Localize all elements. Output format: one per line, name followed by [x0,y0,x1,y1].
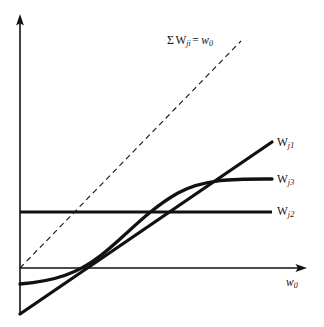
curve-sum-constraint [20,41,241,268]
x-axis-label-sub: 0 [294,281,298,290]
label-W-j3: Wj3 [277,174,294,187]
label-W-j1-main: W [277,136,288,148]
label-W-j2-sub: j2 [288,210,295,219]
label-W-j2: Wj2 [277,206,294,219]
label-W-j1: Wj1 [277,137,294,150]
sum-constraint-variable: W [175,34,186,46]
x-axis-label-main: w [286,276,294,288]
horizontal-axis [20,264,307,272]
equals-sign: = [191,34,202,46]
label-W-j3-sub: j3 [288,178,295,187]
sum-constraint-rhs-subscript: 0 [209,39,213,48]
label-W-j1-sub: j1 [288,141,295,150]
figure-canvas: ΣWji=w0 Wj1 Wj3 Wj2 w0 [0,0,324,327]
label-W-j3-main: W [277,173,288,185]
curve-W-j1 [20,142,272,314]
sum-constraint-annotation: ΣWji=w0 [167,34,213,48]
sum-constraint-rhs: w [201,34,209,46]
label-W-j2-main: W [277,205,288,217]
plot-area [0,0,324,327]
x-axis-label: w0 [286,277,298,290]
